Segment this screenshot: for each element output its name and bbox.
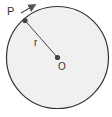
circle-diagram: P r O (0, 0, 112, 117)
center-o-label: O (58, 61, 66, 72)
point-p-dot (22, 18, 27, 23)
center-o-dot (55, 55, 60, 60)
point-p-label: P (7, 5, 14, 17)
motion-arrow-icon (21, 6, 34, 14)
